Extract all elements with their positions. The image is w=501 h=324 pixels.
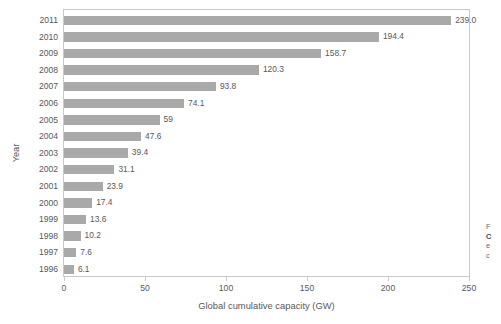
- bar-value-label-2004: 47.6: [145, 128, 161, 145]
- bar-value-label-2003: 39.4: [132, 144, 148, 161]
- bar-row: 7.6: [64, 244, 469, 261]
- x-axis-ticks: 050100150200250: [63, 277, 470, 285]
- bar-row: 39.4: [64, 145, 469, 162]
- y-tick-label-2005: 2005: [0, 112, 58, 129]
- y-tick-label-2009: 2009: [0, 45, 58, 62]
- x-tick-label-200: 200: [381, 283, 395, 293]
- bar-row: 47.6: [64, 128, 469, 145]
- bar-row: 17.4: [64, 195, 469, 212]
- bar-row: 120.3: [64, 62, 469, 79]
- y-tick-label-1996: 1996: [0, 261, 58, 278]
- y-tick-label-2008: 2008: [0, 62, 58, 79]
- x-tick-label-0: 0: [62, 283, 67, 293]
- bar-value-label-2000: 17.4: [96, 194, 112, 211]
- caption-line-3: e: [486, 241, 501, 251]
- y-tick-label-2006: 2006: [0, 95, 58, 112]
- bar-value-label-1999: 13.6: [90, 211, 106, 228]
- bar-value-label-2008: 120.3: [263, 61, 284, 78]
- bar-row: 239.0: [64, 12, 469, 29]
- figure-caption: FCec: [486, 222, 501, 260]
- y-tick-label-2001: 2001: [0, 178, 58, 195]
- bar-row: 158.7: [64, 45, 469, 62]
- bar-2000: [64, 198, 92, 207]
- y-tick-label-2002: 2002: [0, 161, 58, 178]
- bar-1998: [64, 231, 81, 240]
- bar-value-label-2006: 74.1: [188, 95, 204, 112]
- x-tick-label-150: 150: [300, 283, 314, 293]
- bar-value-label-2009: 158.7: [325, 45, 346, 62]
- bars-layer: 239.0194.4158.7120.393.874.15947.639.431…: [64, 10, 469, 276]
- y-tick-label-2000: 2000: [0, 195, 58, 212]
- x-tick-label-50: 50: [140, 283, 150, 293]
- figure-bar-chart: Year 20112010200920082007200620052004200…: [0, 0, 501, 324]
- caption-line-1: F: [486, 222, 501, 232]
- caption-line-4: c: [486, 251, 501, 261]
- bar-2007: [64, 82, 216, 91]
- x-tick-50: [145, 277, 146, 281]
- bar-row: 13.6: [64, 211, 469, 228]
- bar-2004: [64, 132, 141, 141]
- x-tick-150: [307, 277, 308, 281]
- y-tick-label-1998: 1998: [0, 228, 58, 245]
- bar-1996: [64, 265, 74, 274]
- caption-line-2: C: [486, 232, 501, 242]
- y-tick-label-2004: 2004: [0, 128, 58, 145]
- y-tick-label-1997: 1997: [0, 244, 58, 261]
- bar-value-label-2010: 194.4: [383, 28, 404, 45]
- x-tick-0: [64, 277, 65, 281]
- bar-2008: [64, 65, 259, 74]
- bar-2001: [64, 182, 103, 191]
- bar-2002: [64, 165, 114, 174]
- bar-row: 194.4: [64, 29, 469, 46]
- bar-2003: [64, 148, 128, 157]
- x-tick-100: [226, 277, 227, 281]
- bar-row: 93.8: [64, 78, 469, 95]
- bar-1997: [64, 248, 76, 257]
- bar-2009: [64, 49, 321, 58]
- x-tick-250: [469, 277, 470, 281]
- bar-value-label-2001: 23.9: [107, 178, 123, 195]
- bar-2011: [64, 16, 451, 25]
- bar-row: 31.1: [64, 161, 469, 178]
- x-axis-title: Global cumulative capacity (GW): [63, 300, 470, 311]
- bar-row: 6.1: [64, 261, 469, 278]
- y-axis-tick-labels: 2011201020092008200720062005200420032002…: [0, 10, 58, 276]
- x-tick-label-250: 250: [462, 283, 476, 293]
- bar-2006: [64, 99, 184, 108]
- y-tick-label-2007: 2007: [0, 78, 58, 95]
- bar-value-label-1996: 6.1: [78, 261, 90, 278]
- bar-value-label-2007: 93.8: [220, 78, 236, 95]
- bar-value-label-2005: 59: [164, 111, 173, 128]
- bar-row: 23.9: [64, 178, 469, 195]
- bar-row: 74.1: [64, 95, 469, 112]
- bar-row: 59: [64, 112, 469, 129]
- bar-1999: [64, 215, 86, 224]
- bar-value-label-1997: 7.6: [80, 244, 92, 261]
- y-tick-label-2011: 2011: [0, 12, 58, 29]
- bar-2005: [64, 115, 160, 124]
- y-tick-label-2003: 2003: [0, 145, 58, 162]
- y-tick-label-2010: 2010: [0, 29, 58, 46]
- x-tick-200: [388, 277, 389, 281]
- x-tick-label-100: 100: [219, 283, 233, 293]
- bar-value-label-2002: 31.1: [118, 161, 134, 178]
- y-tick-label-1999: 1999: [0, 211, 58, 228]
- bar-row: 10.2: [64, 228, 469, 245]
- bar-value-label-2011: 239.0: [455, 12, 476, 29]
- bar-2010: [64, 32, 379, 41]
- bar-value-label-1998: 10.2: [85, 227, 101, 244]
